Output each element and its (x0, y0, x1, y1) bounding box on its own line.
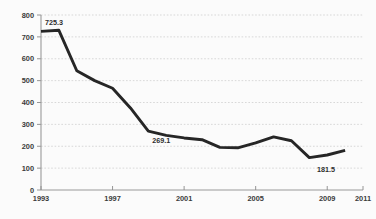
x-tick-label: 2011 (355, 194, 371, 203)
x-tick-label: 1993 (33, 194, 49, 203)
first-point-label: 725.3 (45, 18, 63, 27)
y-tick-label: 400 (22, 98, 34, 107)
x-tick-label: 2009 (319, 194, 335, 203)
x-tick-label: 2005 (247, 194, 263, 203)
y-tick-label: 200 (22, 142, 34, 151)
y-axis-tick-labels: 0100200300400500600700800 (22, 11, 34, 195)
y-tick-label: 800 (22, 11, 34, 20)
chart-canvas: 0100200300400500600700800 19931997200120… (0, 0, 376, 219)
y-tick-label: 600 (22, 54, 34, 63)
x-tick-label: 2001 (176, 194, 192, 203)
y-tick-label: 300 (22, 120, 34, 129)
mid-point-label: 269.1 (152, 136, 170, 145)
y-tick-label: 700 (22, 33, 34, 42)
y-tick-label: 500 (22, 76, 34, 85)
x-tick-label: 1997 (104, 194, 120, 203)
last-point-label: 181.5 (317, 165, 335, 174)
chart-background (0, 0, 376, 219)
line-chart: 0100200300400500600700800 19931997200120… (0, 0, 376, 219)
y-tick-label: 100 (22, 164, 34, 173)
